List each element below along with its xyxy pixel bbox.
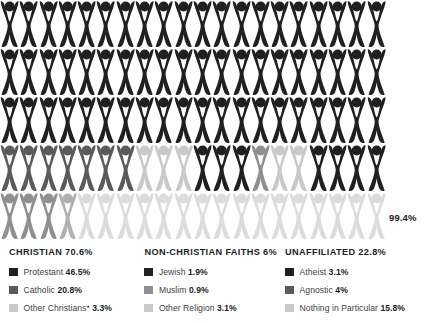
legend-label: Catholic 20.8% (24, 285, 83, 295)
legend-swatch (285, 268, 294, 277)
person-icon (347, 144, 366, 192)
person-icon (193, 0, 212, 48)
person-icon (367, 48, 386, 96)
person-icon (77, 0, 96, 48)
person-icon (116, 96, 135, 144)
legend-column: UNAFFILIATED 22.8%Atheist 3.1%Agnostic 4… (277, 247, 428, 318)
pictogram-row (0, 192, 386, 240)
person-icon (0, 192, 19, 240)
person-icon (96, 192, 115, 240)
person-icon (232, 96, 251, 144)
person-icon (116, 0, 135, 48)
person-icon (135, 0, 154, 48)
person-icon (19, 192, 38, 240)
person-icon (251, 96, 270, 144)
person-icon (77, 192, 96, 240)
person-icon (328, 48, 347, 96)
pictogram-row (0, 96, 386, 144)
person-icon (58, 192, 77, 240)
legend-value: 15.8% (380, 303, 405, 313)
legend-swatch (9, 286, 18, 295)
person-icon (19, 0, 38, 48)
person-icon (270, 192, 289, 240)
person-icon (39, 48, 58, 96)
person-icon (39, 96, 58, 144)
pictogram-chart (0, 0, 386, 240)
person-icon (309, 96, 328, 144)
person-icon (270, 96, 289, 144)
legend-label: Jewish 1.9% (159, 267, 208, 277)
person-icon (328, 192, 347, 240)
person-icon (328, 0, 347, 48)
person-icon (251, 0, 270, 48)
person-icon (135, 48, 154, 96)
legend-label: Protestant 46.5% (24, 267, 91, 277)
person-icon (58, 48, 77, 96)
legend-column: NON-CHRISTIAN FAITHS 6%Jewish 1.9%Muslim… (142, 247, 277, 318)
person-icon (193, 48, 212, 96)
person-icon (328, 144, 347, 192)
person-icon (232, 48, 251, 96)
person-icon (309, 144, 328, 192)
legend-item: Catholic 20.8% (9, 282, 142, 298)
person-icon (328, 96, 347, 144)
person-icon (58, 96, 77, 144)
person-icon (212, 48, 231, 96)
legend-label: Other Religion 3.1% (159, 303, 237, 313)
person-icon (367, 144, 386, 192)
person-icon (174, 192, 193, 240)
person-icon (0, 48, 19, 96)
person-icon (0, 96, 19, 144)
legend-item: Agnostic 4% (285, 282, 428, 298)
person-icon (193, 96, 212, 144)
legend-value: 4% (335, 285, 348, 295)
legend-swatch (144, 268, 153, 277)
person-icon (39, 0, 58, 48)
total-percentage-label: 99.4% (389, 212, 416, 223)
person-icon (96, 96, 115, 144)
legend-label: Other Christians* 3.3% (24, 303, 113, 313)
person-icon (154, 96, 173, 144)
person-icon (154, 48, 173, 96)
person-icon (367, 0, 386, 48)
person-icon (347, 0, 366, 48)
person-icon (212, 96, 231, 144)
person-icon (193, 192, 212, 240)
person-icon (289, 0, 308, 48)
legend-column: CHRISTIAN 70.6%Protestant 46.5%Catholic … (0, 247, 142, 318)
pictogram-row (0, 144, 386, 192)
legend-value: 20.8% (57, 285, 82, 295)
legend-heading: CHRISTIAN 70.6% (9, 247, 142, 257)
person-icon (367, 96, 386, 144)
pictogram-row (0, 0, 386, 48)
legend-swatch (144, 286, 153, 295)
person-icon (19, 48, 38, 96)
legend-value: 1.9% (188, 267, 208, 277)
person-icon (347, 192, 366, 240)
legend-item: Other Religion 3.1% (144, 300, 277, 316)
legend-heading: NON-CHRISTIAN FAITHS 6% (144, 247, 277, 257)
legend-item: Protestant 46.5% (9, 264, 142, 280)
person-icon (174, 144, 193, 192)
person-icon (77, 96, 96, 144)
person-icon (174, 48, 193, 96)
legend-item: Muslim 0.9% (144, 282, 277, 298)
person-icon (96, 144, 115, 192)
person-icon (135, 192, 154, 240)
legend-swatch (144, 304, 153, 313)
legend-item: Nothing in Particular 15.8% (285, 300, 428, 316)
legend-swatch (9, 304, 18, 313)
legend-value: 3.3% (92, 303, 112, 313)
person-icon (232, 144, 251, 192)
legend-label: Atheist 3.1% (300, 267, 349, 277)
person-icon (309, 0, 328, 48)
person-icon (96, 0, 115, 48)
legend-label: Muslim 0.9% (159, 285, 209, 295)
person-icon (135, 144, 154, 192)
person-icon (347, 48, 366, 96)
person-icon (270, 0, 289, 48)
legend-item: Other Christians* 3.3% (9, 300, 142, 316)
person-icon (39, 192, 58, 240)
legend: CHRISTIAN 70.6%Protestant 46.5%Catholic … (0, 247, 428, 318)
pictogram-row (0, 48, 386, 96)
